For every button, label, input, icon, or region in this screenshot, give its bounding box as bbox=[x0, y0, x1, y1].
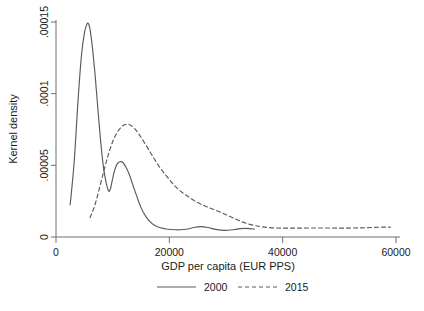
legend: 2000 2015 bbox=[157, 281, 309, 293]
x-tick-label-1: 20000 bbox=[155, 246, 184, 258]
x-tick-label-0: 0 bbox=[53, 246, 59, 258]
y-tick-label-0: 0 bbox=[38, 234, 50, 240]
y-tick-label-2: .0001 bbox=[38, 80, 50, 106]
series-line-2000 bbox=[70, 23, 254, 230]
y-axis-title: Kernel density bbox=[7, 94, 19, 164]
kernel-density-chart: 0.00005.0001.00015 0200004000060000 GDP … bbox=[0, 0, 424, 311]
legend-label-2015: 2015 bbox=[285, 281, 309, 293]
y-axis-ticks: 0.00005.0001.00015 bbox=[38, 6, 56, 240]
axes bbox=[56, 20, 400, 237]
x-axis-ticks: 0200004000060000 bbox=[53, 237, 411, 258]
series-group bbox=[70, 23, 390, 230]
y-tick-label-3: .00015 bbox=[38, 6, 50, 38]
x-tick-label-3: 60000 bbox=[381, 246, 410, 258]
legend-label-2000: 2000 bbox=[204, 281, 228, 293]
y-tick-label-1: .00005 bbox=[38, 149, 50, 181]
x-tick-label-2: 40000 bbox=[268, 246, 297, 258]
x-axis-title: GDP per capita (EUR PPS) bbox=[161, 260, 295, 272]
series-line-2015 bbox=[90, 124, 390, 228]
